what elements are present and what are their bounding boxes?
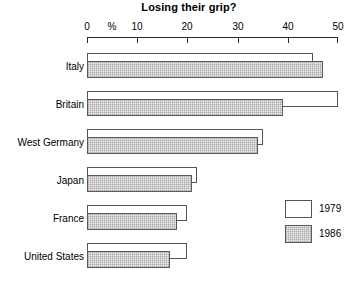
- x-axis-tick-10: [137, 37, 138, 43]
- bar-group-italy: Italy: [0, 50, 352, 88]
- hatched-square-icon: [285, 225, 312, 243]
- x-axis-tick-40: [288, 37, 289, 43]
- x-axis-line: [87, 37, 338, 38]
- bar-france-1986: [87, 213, 177, 230]
- y-axis-label-west-germany: West Germany: [18, 137, 85, 148]
- bar-italy-1986: [87, 61, 323, 78]
- x-tick-label-30: 30: [223, 21, 253, 32]
- x-axis-tick-50: [337, 37, 338, 43]
- x-axis-tick-30: [238, 37, 239, 43]
- bar-britain-1986: [87, 99, 283, 116]
- x-tick-label-40: 40: [273, 21, 303, 32]
- x-tick-label-10: 10: [122, 21, 152, 32]
- bar-group-britain: Britain: [0, 88, 352, 126]
- y-axis-label-britain: Britain: [56, 99, 84, 110]
- legend-label-1986: 1986: [319, 228, 341, 239]
- x-tick-label-50: 50: [323, 21, 352, 32]
- white-square-icon: [285, 200, 312, 218]
- y-axis-label-france: France: [53, 213, 84, 224]
- x-axis-tick-20: [187, 37, 188, 43]
- y-axis-label-united-states: United States: [24, 251, 84, 262]
- plot-area: 0 % 10 20 30 40 50 Italy Britain West Ge…: [0, 0, 352, 288]
- x-tick-label-0: 0: [72, 21, 102, 32]
- y-axis-label-japan: Japan: [57, 175, 84, 186]
- x-axis-unit-label: %: [100, 21, 124, 32]
- x-tick-label-20: 20: [172, 21, 202, 32]
- legend-label-1979: 1979: [319, 203, 341, 214]
- bar-japan-1986: [87, 175, 192, 192]
- bar-group-west-germany: West Germany: [0, 126, 352, 164]
- x-axis-tick-0: [87, 37, 88, 43]
- bar-united-states-1986: [87, 251, 170, 268]
- bar-west-germany-1986: [87, 137, 258, 154]
- bar-group-united-states: United States: [0, 240, 352, 278]
- bar-group-japan: Japan: [0, 164, 352, 202]
- chart-container: Losing their grip? 0 % 10 20 30 40 50 It…: [0, 0, 352, 288]
- y-axis-label-italy: Italy: [66, 61, 84, 72]
